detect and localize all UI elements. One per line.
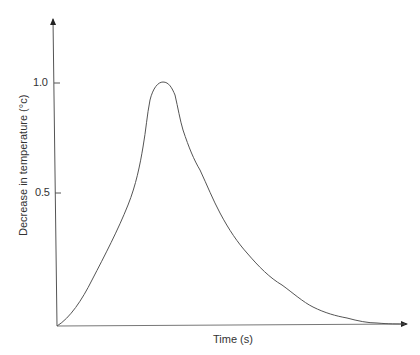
y-axis-label: Decrease in temperature (°c) [17, 96, 29, 236]
x-axis [57, 324, 407, 326]
y-axis [53, 19, 57, 326]
y-tick-label-1.0: 1.0 [33, 76, 48, 88]
x-axis-label: Time (s) [213, 333, 253, 345]
y-tick-label-0.5: 0.5 [35, 186, 50, 198]
chart-canvas [0, 0, 420, 355]
series-line [57, 82, 405, 326]
